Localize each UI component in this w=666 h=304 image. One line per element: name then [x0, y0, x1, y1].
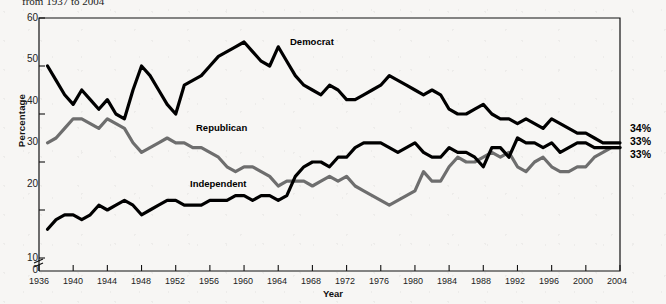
- series-path-independent: [48, 138, 620, 229]
- axis-ticks: [39, 18, 620, 271]
- plot-frame: [39, 18, 620, 271]
- end-label-democrat: 34%: [630, 122, 651, 134]
- end-label-republican: 33%: [630, 135, 651, 147]
- series-path-democrat: [48, 42, 620, 143]
- series-label-independent: Independent: [190, 178, 246, 189]
- series-label-democrat: Democrat: [290, 36, 334, 47]
- end-label-independent: 33%: [630, 148, 651, 160]
- chart-figure: from 1937 to 2004 Percentage Year 60 50 …: [0, 0, 666, 304]
- data-lines: [48, 42, 620, 229]
- series-label-republican: Republican: [196, 122, 247, 133]
